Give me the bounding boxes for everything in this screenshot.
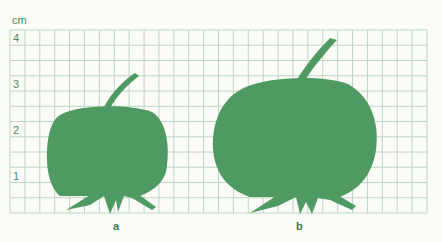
fruit-b-stem	[298, 38, 337, 79]
y-tick-4: 4	[13, 32, 19, 44]
fruit-b-body	[213, 78, 377, 197]
fruit-a-body	[47, 106, 168, 196]
y-tick-3: 3	[13, 78, 19, 90]
figure: cm 4 3 2 1 a b	[0, 0, 442, 242]
fruit-a	[47, 73, 168, 214]
y-tick-2: 2	[13, 124, 19, 136]
caption-b: b	[296, 220, 303, 232]
figure-canvas: cm 4 3 2 1 a b	[0, 0, 442, 242]
y-tick-1: 1	[13, 170, 19, 182]
caption-a: a	[113, 220, 120, 232]
unit-label: cm	[12, 14, 27, 26]
